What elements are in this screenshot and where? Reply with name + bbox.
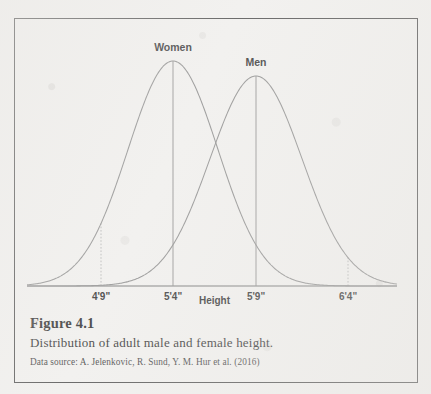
x-tick-label-5ft4: 5'4" [164, 291, 182, 302]
curve-label-men: Men [246, 56, 267, 68]
x-tick-label-6ft4: 6'4" [339, 291, 357, 302]
figure-number: Figure 4.1 [30, 315, 405, 332]
x-tick-label-4ft9: 4'9" [92, 291, 110, 302]
plot-area: Women Men 4'9" 5'4" 5'9" 6'4" Height [15, 19, 419, 319]
curve-men [27, 76, 397, 286]
x-axis-title: Height [199, 295, 230, 306]
figure-caption-block: Figure 4.1 Distribution of adult male an… [30, 315, 405, 367]
figure-frame: Women Men 4'9" 5'4" 5'9" 6'4" Height Fig… [14, 18, 418, 383]
curve-women [27, 61, 397, 286]
figure-data-source: Data source: A. Jelenkovic, R. Sund, Y. … [30, 357, 405, 367]
x-tick-label-5ft9: 5'9" [247, 291, 265, 302]
ghost-text-above-figure [26, 0, 406, 5]
curve-label-women: Women [154, 41, 192, 53]
figure-caption-text: Distribution of adult male and female he… [30, 335, 405, 351]
distribution-chart-svg [15, 19, 419, 319]
